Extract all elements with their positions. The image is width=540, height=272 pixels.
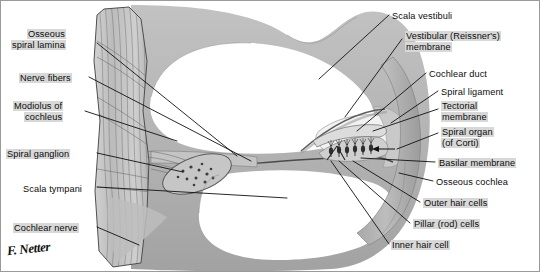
label-tectorial-membrane-line-0: Tectorial <box>441 101 478 111</box>
label-modiolus-of-cochleus-line-1: cochleus <box>24 112 63 122</box>
label-vestibular-membrane-line-1: membrane <box>405 42 452 52</box>
label-spiral-organ-of-corti-line-1: (of Corti) <box>441 138 480 148</box>
label-osseous-spiral-lamina-line-0: Osseous <box>27 29 66 39</box>
label-pillar-rod-cells: Pillar (rod) cells <box>413 219 480 230</box>
label-inner-hair-cell-line-0: Inner hair cell <box>391 240 450 250</box>
label-osseous-spiral-lamina-line-1: spiral lamina <box>11 40 66 50</box>
label-outer-hair-cells-line-0: Outer hair cells <box>423 198 488 208</box>
label-basilar-membrane-line-0: Basilar membrane <box>438 158 516 168</box>
label-modiolus-of-cochleus: Modiolus ofcochleus <box>13 101 63 123</box>
label-spiral-ganglion: Spiral ganglion <box>6 149 70 160</box>
label-cochlear-nerve-line-0: Cochlear nerve <box>13 223 79 233</box>
label-osseous-cochlea: Osseous cochlea <box>436 177 508 188</box>
label-spiral-organ-of-corti: Spiral organ(of Corti) <box>441 127 494 149</box>
label-inner-hair-cell: Inner hair cell <box>391 240 450 251</box>
label-vestibular-membrane: Vestibular (Reissner's)membrane <box>405 31 501 53</box>
label-scala-tympani-line-0: Scala tympani <box>23 184 82 194</box>
label-scala-vestibuli: Scala vestibuli <box>392 11 452 22</box>
label-cochlear-duct: Cochlear duct <box>429 69 487 80</box>
label-basilar-membrane: Basilar membrane <box>438 158 516 169</box>
label-scala-tympani: Scala tympani <box>23 184 82 195</box>
label-tectorial-membrane: Tectorialmembrane <box>441 101 488 123</box>
label-spiral-ganglion-line-0: Spiral ganglion <box>6 149 70 159</box>
label-scala-vestibuli-line-0: Scala vestibuli <box>392 11 452 21</box>
label-spiral-ligament: Spiral ligament <box>441 87 503 98</box>
label-osseous-cochlea-line-0: Osseous cochlea <box>436 177 508 187</box>
label-nerve-fibers-line-0: Nerve fibers <box>19 73 72 83</box>
label-pillar-rod-cells-line-0: Pillar (rod) cells <box>413 219 480 229</box>
label-modiolus-of-cochleus-line-0: Modiolus of <box>13 101 63 111</box>
label-tectorial-membrane-line-1: membrane <box>441 112 488 122</box>
label-vestibular-membrane-line-0: Vestibular (Reissner's) <box>405 31 501 41</box>
label-cochlear-duct-line-0: Cochlear duct <box>429 69 487 79</box>
label-cochlear-nerve: Cochlear nerve <box>13 223 79 234</box>
label-nerve-fibers: Nerve fibers <box>19 73 72 84</box>
label-spiral-ligament-line-0: Spiral ligament <box>441 87 503 97</box>
label-osseous-spiral-lamina: Osseousspiral lamina <box>11 29 66 51</box>
label-spiral-organ-of-corti-line-0: Spiral organ <box>441 127 494 137</box>
label-outer-hair-cells: Outer hair cells <box>423 198 488 209</box>
figure-canvas: Osseousspiral laminaNerve fibersModiolus… <box>0 0 540 272</box>
